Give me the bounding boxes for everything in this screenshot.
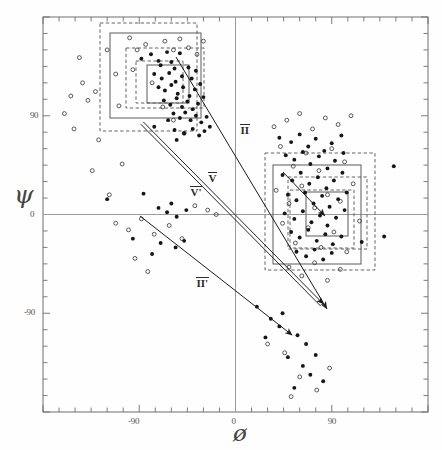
data-point xyxy=(345,191,349,195)
data-point xyxy=(166,118,170,122)
data-point xyxy=(309,220,313,224)
data-point xyxy=(292,217,296,221)
data-point xyxy=(181,85,185,89)
x-tick-label: -90 xyxy=(128,416,139,426)
data-point xyxy=(114,221,118,225)
data-point xyxy=(289,230,293,234)
data-point xyxy=(289,395,293,399)
data-point xyxy=(174,245,178,249)
data-point xyxy=(314,137,318,141)
data-point xyxy=(326,278,330,282)
data-point xyxy=(277,136,281,140)
transformation-arrows xyxy=(140,57,327,335)
data-point xyxy=(146,270,150,274)
data-point xyxy=(382,234,386,238)
label-II: II xyxy=(240,124,250,137)
data-point xyxy=(281,221,285,225)
data-point xyxy=(157,206,161,210)
data-point xyxy=(295,198,299,202)
filled-circle-data-points xyxy=(105,50,396,390)
data-point xyxy=(72,127,76,131)
data-point xyxy=(298,375,302,379)
data-point xyxy=(105,48,109,52)
data-point xyxy=(319,245,323,249)
data-point xyxy=(193,204,197,208)
data-point xyxy=(90,169,94,173)
data-point xyxy=(157,59,161,63)
data-point xyxy=(330,141,334,145)
data-point xyxy=(324,186,328,190)
data-point xyxy=(107,193,111,197)
data-point xyxy=(173,67,177,71)
data-point xyxy=(339,134,343,138)
data-point xyxy=(149,52,153,56)
data-point xyxy=(203,129,207,133)
data-point xyxy=(301,364,305,368)
data-point xyxy=(131,237,135,241)
arrow-line xyxy=(140,216,292,335)
data-point xyxy=(175,215,179,219)
data-point xyxy=(135,48,139,52)
data-point xyxy=(127,228,131,232)
data-point xyxy=(306,145,310,149)
data-point xyxy=(62,112,66,116)
y-tick-label: -90 xyxy=(24,307,35,317)
data-point xyxy=(298,236,302,240)
data-point xyxy=(180,105,184,109)
data-point xyxy=(328,366,332,370)
data-point xyxy=(304,254,308,258)
data-point xyxy=(339,234,343,238)
data-point xyxy=(266,342,270,346)
data-point xyxy=(351,182,355,186)
roman-numeral-text: V' xyxy=(190,186,202,199)
data-point xyxy=(330,147,334,151)
data-point xyxy=(300,184,304,188)
data-point xyxy=(340,171,344,175)
data-point xyxy=(174,80,178,84)
figure-container: ψ ø -90090900-90 IIII'VV' xyxy=(0,0,442,450)
data-point xyxy=(175,138,179,142)
data-point xyxy=(318,214,322,218)
data-point xyxy=(189,118,193,122)
data-point xyxy=(308,373,312,377)
data-point xyxy=(320,194,324,198)
roman-numeral-text: V xyxy=(208,172,217,185)
arrow-line xyxy=(143,122,323,304)
y-axis-symbol-psi: ψ xyxy=(14,180,34,209)
data-point xyxy=(152,72,156,76)
data-point xyxy=(194,114,198,118)
data-point xyxy=(182,131,186,135)
data-point xyxy=(315,239,319,243)
data-point xyxy=(152,232,156,236)
data-point xyxy=(191,107,195,111)
data-point xyxy=(328,205,332,209)
data-point xyxy=(120,162,124,166)
data-point xyxy=(284,153,288,157)
data-point xyxy=(186,66,190,70)
data-point xyxy=(139,57,143,61)
data-point xyxy=(159,63,163,67)
y-tick-label: 0 xyxy=(30,209,34,219)
data-point xyxy=(172,112,176,116)
data-point xyxy=(330,251,334,255)
data-point xyxy=(175,96,179,100)
data-point xyxy=(205,115,209,119)
data-point xyxy=(178,51,182,55)
data-point xyxy=(334,216,338,220)
data-point xyxy=(317,154,321,158)
data-point xyxy=(144,42,148,46)
roman-numeral-text: II xyxy=(240,124,250,137)
data-point xyxy=(306,228,310,232)
label-Vp: V' xyxy=(190,186,202,199)
data-point xyxy=(178,37,182,41)
data-point xyxy=(293,241,297,245)
data-point xyxy=(160,76,164,80)
data-point xyxy=(301,209,305,213)
data-point xyxy=(142,192,146,196)
data-point xyxy=(173,128,177,132)
x-tick-label: 90 xyxy=(328,416,336,426)
data-point xyxy=(169,202,173,206)
data-point xyxy=(342,151,346,155)
data-point xyxy=(349,114,353,118)
region-box xyxy=(265,153,375,270)
